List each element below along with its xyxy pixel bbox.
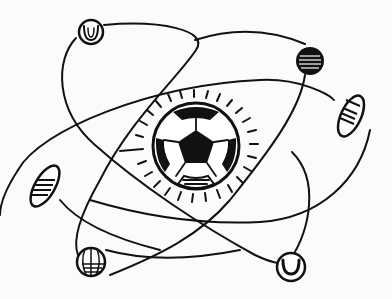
tennis-ball-bottom-right (277, 253, 305, 281)
soccer-ball-nucleus (153, 103, 239, 189)
basketball-bottom-left (77, 248, 105, 276)
basketball-top-right (296, 47, 324, 75)
sports-atom-illustration (0, 0, 392, 299)
atom-drawing (0, 0, 392, 299)
tennis-ball-top-left (79, 20, 103, 44)
football-left (25, 161, 65, 211)
football-right (333, 92, 370, 140)
